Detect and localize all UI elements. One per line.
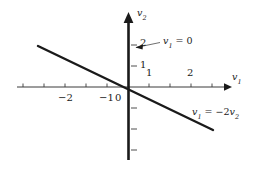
annotation-v1-equals-0: v1 = 0 <box>163 36 193 48</box>
line-eq-sub: 1 <box>198 113 202 121</box>
vector-line-diagram: v2 v1 2 1 1 2 0 −1 −2 v1 = 0 v1 = −2v2 <box>0 0 257 173</box>
vertical-axis-label: v2 <box>137 8 147 20</box>
origin-label: 0 <box>115 93 121 103</box>
diagram-canvas <box>0 0 257 173</box>
horizontal-axis-label-sub: 1 <box>238 78 242 86</box>
annotation-v1-base: v <box>163 35 168 46</box>
horizontal-axis-label-base: v <box>232 71 237 82</box>
line-eq-rest: = −2 <box>205 106 230 117</box>
x-tick-label-1: 1 <box>146 68 152 78</box>
annotation-v1-rest: = 0 <box>176 35 193 46</box>
line-eq-base: v <box>192 106 197 117</box>
annotation-v1-sub: 1 <box>169 42 173 50</box>
x-tick-label-neg-2: −2 <box>58 93 73 103</box>
x-tick-label-2: 2 <box>187 68 193 78</box>
horizontal-axis-label: v1 <box>232 72 242 84</box>
annotation-line-equation: v1 = −2v2 <box>192 107 239 119</box>
vertical-axis-label-base: v <box>137 7 142 18</box>
line-eq-sub2: 2 <box>235 113 239 121</box>
line-v1-equals-minus-2v2 <box>38 46 213 130</box>
vertical-axis-group <box>124 12 137 160</box>
vertical-axis-label-sub: 2 <box>143 14 147 22</box>
x-tick-label-neg-1: −1 <box>99 93 114 103</box>
vertical-axis-arrowhead <box>124 12 134 23</box>
horizontal-axis-arrowhead <box>224 83 232 91</box>
y-tick-label-2: 2 <box>140 38 146 48</box>
